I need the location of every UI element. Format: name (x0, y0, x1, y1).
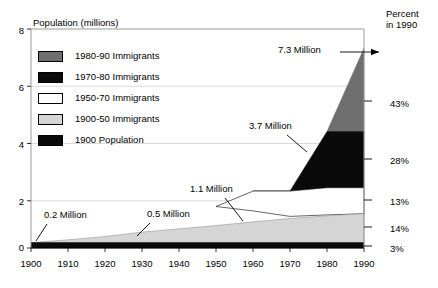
y-axis-ticks (27, 29, 31, 248)
legend-swatch-1900-50 (38, 114, 63, 125)
area-1900-population (31, 243, 364, 249)
legend-label-1900-50: 1900-50 Immigrants (75, 113, 159, 124)
annotation-0-2-million: 0.2 Million (44, 209, 87, 220)
legend-label-1950-70: 1950-70 Immigrants (75, 92, 159, 103)
legend-label-1970-80: 1970-80 Immigrants (75, 71, 159, 82)
percent-axis-ticks (364, 101, 372, 246)
legend-label-1900-population: 1900 Population (75, 134, 144, 145)
annotation-1-1-million: 1.1 Million (190, 183, 233, 194)
annotation-3-7-million: 3.7 Million (249, 120, 292, 131)
annotation-7-3-million: 7.3 Million (278, 44, 321, 55)
legend-swatch-1970-80 (38, 72, 63, 83)
legend-swatch-1980-90 (38, 51, 63, 62)
stacked-area-plot (0, 0, 438, 288)
legend-swatch-1950-70 (38, 93, 63, 104)
chart-figure: Population (millions) Percent in 1990 8 … (0, 0, 438, 288)
annotation-0-5-million: 0.5 Million (147, 208, 190, 219)
legend-swatch-1900-population (38, 135, 63, 146)
x-axis-ticks (31, 248, 364, 252)
leader-arrowhead-7-3-million (371, 49, 379, 55)
legend-label-1980-90: 1980-90 Immigrants (75, 50, 159, 61)
